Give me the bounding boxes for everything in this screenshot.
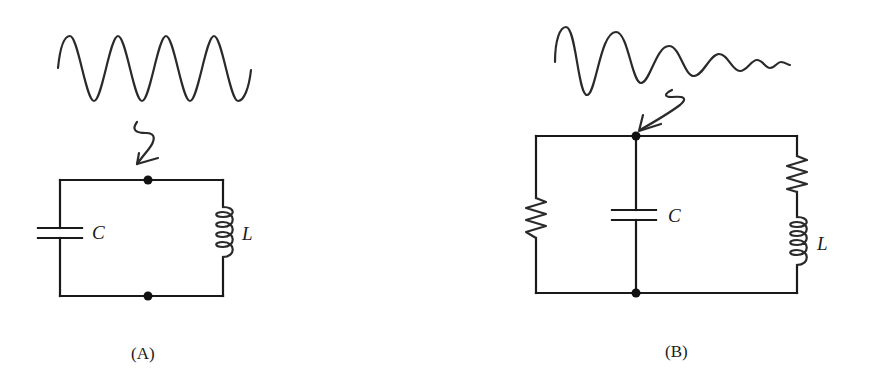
inductor-a xyxy=(216,207,233,257)
caption-b: (B) xyxy=(665,342,688,362)
resistor-right-b xyxy=(787,156,807,192)
capacitor-b xyxy=(612,210,656,220)
inductor-label-b: L xyxy=(817,233,828,255)
junction-dot-top-a xyxy=(144,176,153,185)
capacitor-label-a: C xyxy=(92,222,105,244)
junction-dot-top-b xyxy=(632,132,641,141)
junction-dot-bottom-b xyxy=(632,289,641,298)
caption-a: (A) xyxy=(131,344,155,364)
capacitor-a xyxy=(38,228,82,238)
circuit-diagrams xyxy=(0,0,872,388)
damped-sine-wave xyxy=(555,27,790,95)
panel-b xyxy=(526,27,807,298)
inductor-b xyxy=(790,217,807,265)
capacitor-label-b: C xyxy=(668,205,681,227)
panel-a xyxy=(38,36,251,301)
junction-dot-bottom-a xyxy=(144,292,153,301)
resistor-left-b xyxy=(526,198,546,238)
figure-canvas: C L (A) C L (B) xyxy=(0,0,872,388)
undamped-sine-wave xyxy=(58,36,251,101)
inductor-label-a: L xyxy=(242,223,253,245)
